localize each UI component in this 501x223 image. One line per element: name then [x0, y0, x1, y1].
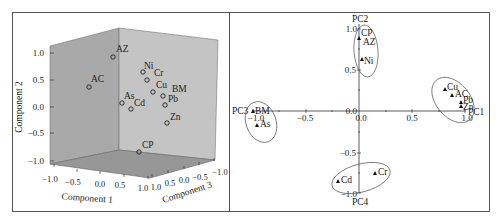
z-tick: 0.5	[165, 178, 176, 188]
y-axis-label: Component 2	[14, 81, 24, 133]
label-bm: BM	[172, 84, 187, 94]
label-cr: Cr	[154, 68, 164, 78]
x-tick: 1.0	[138, 183, 149, 193]
label-cp: CP	[142, 140, 154, 150]
z-tick: 1.0	[151, 182, 162, 192]
x-tick: −0.5	[65, 177, 80, 187]
z-tick: 0.0	[179, 175, 190, 185]
y-tick: 1.0	[33, 48, 45, 58]
z-tick: −1.0	[212, 167, 227, 177]
label-zn: Zn	[170, 112, 181, 122]
label-cu: Cu	[156, 80, 167, 90]
x-axis-label: Component 1	[61, 191, 113, 205]
label-pb: Pb	[168, 94, 178, 104]
label-cd: Cd	[134, 98, 145, 108]
label-ac: AC	[91, 74, 104, 84]
label-az: AZ	[116, 44, 129, 54]
x-tick: 0.0	[95, 179, 106, 189]
left-wall	[50, 28, 119, 164]
x-tick: 0.5	[115, 180, 126, 190]
y-tick: −0.5	[28, 128, 45, 138]
x-tick: −1.0	[42, 174, 57, 184]
y-tick: 0.5	[33, 75, 45, 85]
y-tick: −1.0	[28, 156, 45, 166]
y-tick: 0.0	[33, 102, 45, 112]
label-ni: Ni	[144, 61, 154, 71]
left-3d-chart: 1.0 0.5 0.0 −0.5 −1.0 Component 2 −1.0 −…	[0, 0, 230, 223]
